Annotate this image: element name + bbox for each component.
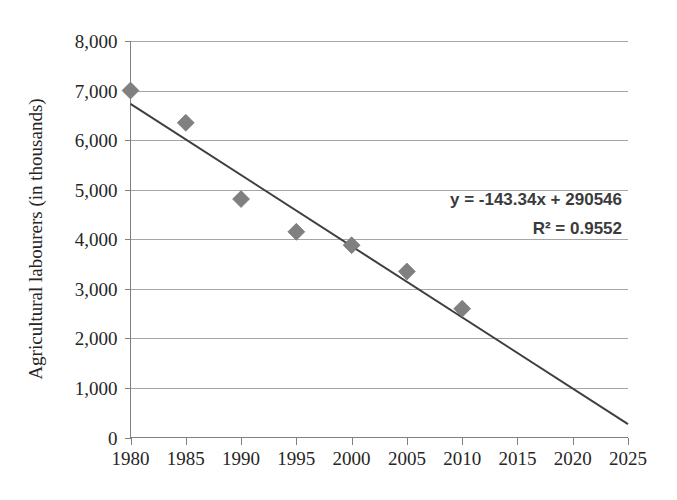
x-axis-tick-label: 1985 (167, 448, 205, 469)
x-axis-tick-label: 1990 (222, 448, 260, 469)
x-axis-tick-label: 2015 (498, 448, 536, 469)
scatter-chart: 01,0002,0003,0004,0005,0006,0007,0008,00… (0, 0, 677, 500)
y-axis-tick-label: 8,000 (75, 31, 118, 52)
x-axis-tick-label: 2000 (333, 448, 371, 469)
y-axis-title: Agricultural labourers (in thousands) (25, 98, 47, 379)
y-axis-tick-label: 2,000 (75, 328, 118, 349)
x-axis-tick-label: 2025 (609, 448, 647, 469)
y-axis-tick-label: 0 (108, 428, 118, 449)
x-axis-tick-label: 1995 (277, 448, 315, 469)
trendline-equation-label: y = -143.34x + 290546 (450, 190, 622, 209)
x-axis-tick-label: 2010 (443, 448, 481, 469)
y-axis-tick-label: 7,000 (75, 81, 118, 102)
r-squared-label: R² = 0.9552 (533, 219, 622, 238)
y-axis-tick-label: 4,000 (75, 229, 118, 250)
y-axis-tick-label: 3,000 (75, 279, 118, 300)
x-axis-tick-label: 2020 (554, 448, 592, 469)
y-axis-tick-labels: 01,0002,0003,0004,0005,0006,0007,0008,00… (75, 31, 118, 449)
chart-container: 01,0002,0003,0004,0005,0006,0007,0008,00… (0, 0, 677, 500)
x-axis-tick-label: 2005 (388, 448, 426, 469)
y-axis-tick-label: 6,000 (75, 130, 118, 151)
y-axis-tick-label: 1,000 (75, 378, 118, 399)
y-axis-tick-label: 5,000 (75, 180, 118, 201)
x-axis-tick-label: 1980 (112, 448, 150, 469)
